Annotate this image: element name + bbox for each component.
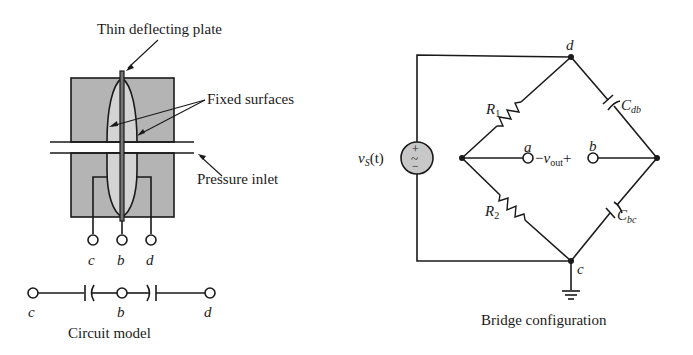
bridge-circuit (401, 55, 657, 299)
node-label-c: c (577, 262, 584, 277)
circuit-model (28, 285, 215, 301)
fixed-surfaces-label: Fixed surfaces (207, 92, 294, 107)
terminal-label-c: c (88, 253, 95, 268)
terminal-c (88, 235, 98, 245)
cbc-label: Cbc (617, 208, 636, 225)
terminal-d (146, 235, 156, 245)
model-label-c: c (28, 305, 35, 320)
plate-label: Thin deflecting plate (97, 22, 222, 37)
deflecting-plate (120, 71, 124, 221)
terminal-label-d: d (146, 253, 154, 268)
terminal-label-b: b (117, 253, 125, 268)
vout-label: −vout+ (535, 151, 571, 168)
r1-label: R1 (486, 102, 500, 119)
node-label-a: a (524, 140, 532, 155)
circuit-model-caption: Circuit model (68, 326, 151, 341)
r2-label: R2 (485, 204, 499, 221)
node-label-d: d (566, 38, 574, 53)
bridge-caption: Bridge configuration (481, 313, 606, 328)
model-label-d: d (204, 305, 212, 320)
source-minus: − (412, 160, 419, 172)
model-label-b: b (117, 305, 125, 320)
diagram-canvas (0, 0, 693, 355)
source-label: vS(t) (358, 151, 384, 168)
cdb-label: Cdb (621, 98, 641, 115)
pressure-inlet-label: Pressure inlet (197, 172, 278, 187)
node-label-b: b (589, 139, 597, 154)
terminal-b (117, 235, 127, 245)
